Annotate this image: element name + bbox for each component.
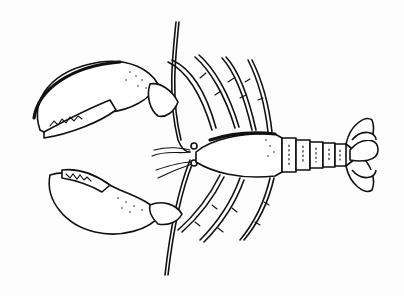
carapace (196, 133, 282, 177)
lower-claw (49, 170, 182, 234)
lower-legs (178, 175, 274, 242)
tail-fan (346, 119, 378, 192)
upper-claw (34, 61, 178, 138)
lobster-drawing (0, 0, 404, 296)
lobster-illustration: lobster (0, 0, 404, 296)
upper-legs (168, 55, 272, 132)
abdomen-segments (282, 138, 346, 172)
